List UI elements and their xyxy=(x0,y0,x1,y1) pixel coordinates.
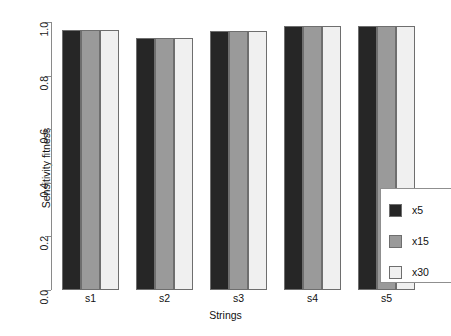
bar xyxy=(284,26,303,290)
bar xyxy=(100,30,119,290)
bar xyxy=(174,38,193,290)
legend-item: x15 xyxy=(389,233,429,249)
y-axis-line xyxy=(51,22,52,290)
legend-swatch xyxy=(389,235,402,248)
y-tick-label: 0.2 xyxy=(38,236,50,251)
bar xyxy=(322,26,341,290)
legend-item: x30 xyxy=(389,264,429,280)
legend-item: x5 xyxy=(389,202,423,218)
legend-swatch xyxy=(389,266,402,279)
bar xyxy=(303,26,322,290)
bar-group xyxy=(210,22,267,290)
x-axis-label: s1 xyxy=(62,292,119,304)
bar-group xyxy=(136,22,193,290)
bar xyxy=(210,31,229,290)
legend-label: x15 xyxy=(412,235,429,247)
bar xyxy=(81,30,100,290)
x-axis-label: s3 xyxy=(210,292,267,304)
x-axis-title: Strings xyxy=(0,309,451,321)
y-tick-label: 0.8 xyxy=(38,76,50,91)
bar xyxy=(229,31,248,290)
x-axis-label: s4 xyxy=(284,292,341,304)
y-tick-label: 0.4 xyxy=(38,183,50,198)
y-tick-label: 1.0 xyxy=(38,22,50,37)
x-axis-label: s5 xyxy=(358,292,415,304)
x-axis-label: s2 xyxy=(136,292,193,304)
legend-label: x5 xyxy=(412,204,423,216)
bar xyxy=(358,26,377,290)
bar xyxy=(155,38,174,290)
legend-swatch xyxy=(389,204,402,217)
bar xyxy=(136,38,155,290)
bar xyxy=(62,30,81,290)
bar xyxy=(248,31,267,290)
y-tick-label: 0.0 xyxy=(38,290,50,305)
legend-label: x30 xyxy=(412,266,429,278)
y-tick-label: 0.6 xyxy=(38,129,50,144)
bar-chart: Sensitivity fitness 0.00.20.40.60.81.0 s… xyxy=(0,0,451,336)
bar-group xyxy=(62,22,119,290)
legend: x5x15x30 xyxy=(380,188,451,283)
bar-group xyxy=(284,22,341,290)
